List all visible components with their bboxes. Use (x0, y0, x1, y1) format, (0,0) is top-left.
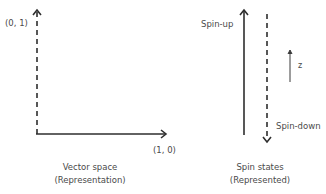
z-axis-arrowhead-icon (288, 50, 292, 54)
caption-title: Vector space (30, 161, 150, 174)
y-axis-label: (0, 1) (5, 19, 28, 28)
vector-space-caption: Vector space (Representation) (30, 161, 150, 187)
caption-subtitle: (Representation) (30, 174, 150, 187)
spin-down-label: Spin-down (276, 122, 321, 131)
z-axis-label: z (298, 62, 302, 70)
spin-states-caption: Spin states (Represented) (200, 161, 320, 187)
caption-subtitle: (Represented) (200, 174, 320, 187)
spin-down-arrowhead-icon (263, 137, 271, 142)
caption-title: Spin states (200, 161, 320, 174)
vector-space-axes (33, 10, 166, 138)
x-axis-label: (1, 0) (153, 146, 176, 155)
spin-up-label: Spin-up (201, 20, 233, 29)
